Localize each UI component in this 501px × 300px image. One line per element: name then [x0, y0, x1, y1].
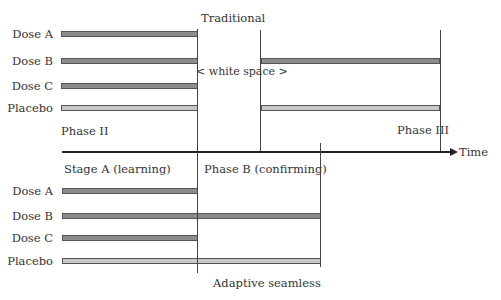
adapt-bar-dose-a — [62, 188, 198, 194]
adapt-row-label-dose-c: Dose C — [3, 233, 53, 245]
trad-bar-dose-a-phase-ii — [61, 31, 198, 37]
trad-bar-placebo-phase-ii — [61, 105, 198, 111]
time-axis-label: Time — [459, 147, 488, 159]
stage-b-end-line — [320, 143, 321, 267]
adapt-bar-dose-b — [62, 213, 321, 219]
trad-row-label-dose-b: Dose B — [3, 56, 53, 68]
adapt-bar-placebo — [62, 258, 321, 264]
trad-bar-dose-b-phase-iii — [261, 58, 440, 64]
trad-row-label-dose-a: Dose A — [3, 29, 53, 41]
time-axis — [62, 151, 451, 153]
adapt-row-label-dose-a: Dose A — [3, 186, 53, 198]
stage-a-end-line — [197, 152, 198, 273]
stage-b-label: Phase B (confirming) — [204, 164, 327, 176]
adapt-bar-dose-c — [62, 235, 198, 241]
trad-bar-dose-b-phase-ii — [61, 58, 198, 64]
adaptive-seamless-title: Adaptive seamless — [213, 278, 321, 290]
trad-row-label-dose-c: Dose C — [3, 81, 53, 93]
trad-bar-placebo-phase-iii — [261, 105, 440, 111]
trad-bar-dose-c-phase-ii — [61, 83, 198, 89]
phase-ii-end-line — [197, 29, 198, 152]
adapt-row-label-dose-b: Dose B — [3, 211, 53, 223]
stage-a-label: Stage A (learning) — [64, 164, 171, 176]
phase-iii-start-line — [260, 30, 261, 152]
phase-ii-label: Phase II — [61, 126, 108, 138]
trad-row-label-placebo: Placebo — [3, 103, 53, 115]
phase-iii-label: Phase III — [397, 125, 449, 137]
adapt-row-label-placebo: Placebo — [3, 256, 53, 268]
white-space-label: < white space > — [196, 66, 288, 77]
traditional-title: Traditional — [201, 13, 265, 25]
time-axis-arrow-icon — [450, 148, 458, 156]
